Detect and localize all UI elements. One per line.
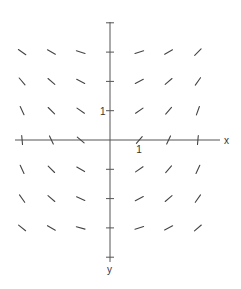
slope-segment: [165, 79, 172, 85]
slope-segment: [76, 51, 85, 54]
slope-segment: [195, 78, 200, 85]
slope-segment: [77, 108, 84, 113]
slope-segment: [19, 78, 25, 85]
slope-segment: [195, 225, 202, 231]
slope-segment: [198, 136, 199, 145]
slope-segment: [76, 227, 85, 229]
slope-segment: [48, 196, 55, 202]
slope-segment: [135, 79, 143, 83]
slope-segment: [22, 136, 23, 145]
slope-segment: [196, 107, 199, 115]
slope-segment: [77, 79, 85, 83]
slope-segment: [166, 166, 172, 173]
slope-segment: [18, 50, 25, 55]
slope-segment: [48, 108, 54, 114]
slope-segment: [196, 165, 200, 173]
slope-segment: [20, 107, 24, 115]
x-axis-label: x: [224, 135, 229, 146]
slope-segment: [77, 197, 85, 201]
slope-segment: [20, 165, 24, 173]
slope-segment: [135, 227, 144, 230]
slope-field-diagram: x y 1 1: [0, 0, 241, 289]
slope-segment: [48, 50, 56, 55]
slope-segment: [165, 50, 173, 55]
slope-segment: [136, 167, 143, 172]
slope-segment: [195, 49, 201, 55]
slope-segment: [165, 226, 173, 230]
slope-segment: [135, 197, 143, 201]
slope-segment: [77, 167, 85, 172]
slope-segment: [165, 196, 172, 202]
slope-segment: [19, 225, 26, 231]
y-unit-label: 1: [100, 106, 106, 117]
x-unit-label: 1: [136, 144, 142, 155]
slope-segment: [195, 195, 200, 202]
slope-segment: [48, 226, 56, 231]
y-axis-label: y: [107, 264, 112, 275]
slope-segment: [48, 79, 55, 85]
slope-segment: [135, 51, 144, 54]
slope-segment: [166, 107, 172, 114]
slope-segment: [20, 195, 25, 202]
slope-segment: [136, 108, 143, 113]
axes: [15, 22, 220, 262]
slope-segment: [48, 166, 54, 172]
